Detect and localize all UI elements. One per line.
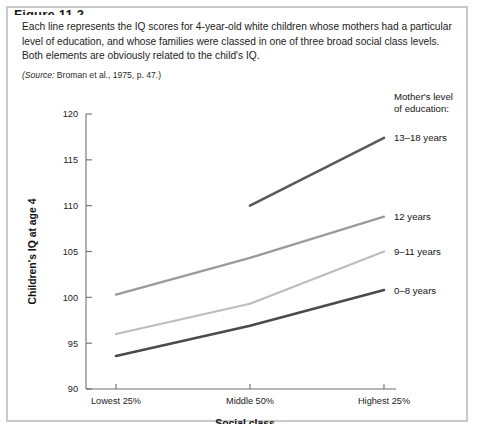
x-axis-tick-label: Highest 25% bbox=[358, 396, 410, 406]
y-axis-tick-label: 100 bbox=[63, 293, 78, 303]
y-axis-tick-label: 120 bbox=[63, 109, 78, 119]
figure-panel: Figure 11.2 Each line represents the IQ … bbox=[6, 6, 468, 422]
legend-heading-line1: Mother's level bbox=[394, 91, 453, 102]
chart-series-line bbox=[116, 290, 384, 356]
legend-label-1: 13–18 years bbox=[394, 132, 447, 143]
y-axis-tick-label: 110 bbox=[63, 201, 78, 211]
x-axis-tick-label: Lowest 25% bbox=[91, 396, 141, 406]
chart-plot-area: 9095100105110115120Lowest 25%Middle 50%H… bbox=[8, 8, 470, 424]
y-axis-tick-label: 90 bbox=[68, 384, 78, 394]
x-axis-tick-label: Middle 50% bbox=[226, 396, 274, 406]
legend-label-4: 0–8 years bbox=[394, 285, 436, 296]
y-axis-tick-label: 105 bbox=[63, 247, 78, 257]
legend-label-2: 12 years bbox=[394, 211, 431, 222]
chart-series-line bbox=[116, 252, 384, 335]
y-axis-tick-label: 95 bbox=[68, 339, 78, 349]
legend-heading-line2: of education: bbox=[394, 103, 449, 114]
y-axis-title: Children's IQ at age 4 bbox=[27, 198, 38, 304]
x-axis-title: Social class bbox=[215, 418, 275, 424]
chart-series-line bbox=[116, 217, 384, 295]
y-axis-tick-label: 115 bbox=[63, 155, 78, 165]
chart-series-line bbox=[250, 138, 384, 206]
line-chart: 9095100105110115120Lowest 25%Middle 50%H… bbox=[8, 8, 470, 424]
legend-label-3: 9–11 years bbox=[394, 246, 441, 257]
